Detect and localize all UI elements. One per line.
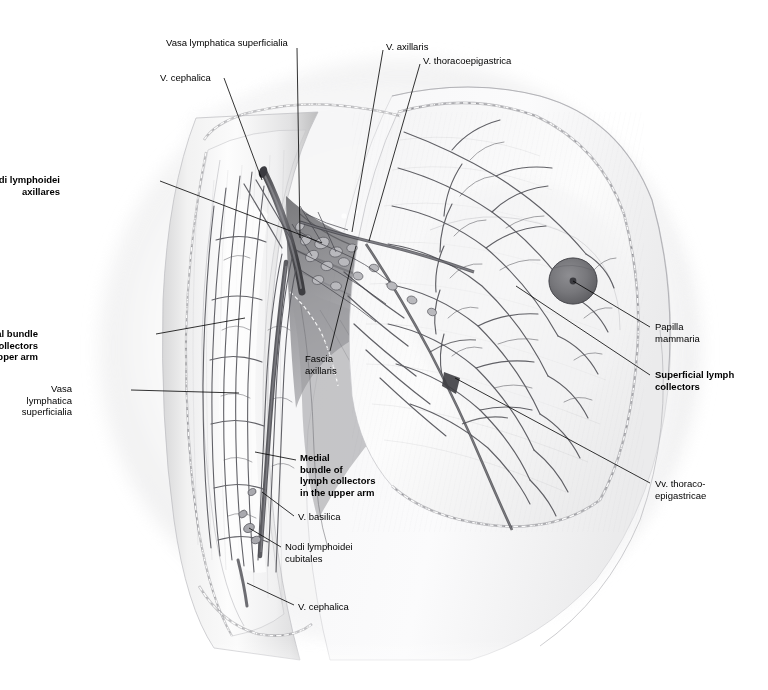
label-v-axillaris: V. axillaris	[386, 41, 428, 53]
anatomy-illustration	[0, 0, 768, 690]
label-dorsolateral-bundle: Dorsolateral bundle of lymph collectors …	[0, 328, 38, 363]
label-nodi-lymphoidei-axillares: Nodi lymphoidei axillares	[0, 174, 60, 197]
label-v-basilica: V. basilica	[298, 511, 340, 523]
nipple-areola	[549, 258, 597, 304]
label-v-thoracoepigastrica: V. thoracoepigastrica	[423, 55, 511, 67]
label-nodi-lymphoidei-cubitales: Nodi lymphoidei cubitales	[285, 541, 353, 564]
anatomical-figure: Vasa lymphatica superficialiaV. axillari…	[0, 0, 768, 690]
label-vasa-lymphatica-superficialia-top: Vasa lymphatica superficialia	[166, 37, 288, 49]
label-vv-thoraco-epigastricae: Vv. thoraco- epigastricae	[655, 478, 706, 501]
label-papilla-mammaria: Papilla mammaria	[655, 321, 700, 344]
label-superficial-lymph-collectors: Superficial lymph collectors	[655, 369, 734, 392]
label-vasa-lymphatica-superficialia-arm: Vasa lymphatica superficialia	[22, 383, 72, 418]
label-v-cephalica-top: V. cephalica	[160, 72, 211, 84]
label-medial-bundle: Medial bundle of lymph collectors in the…	[300, 452, 376, 498]
label-fascia-axillaris: Fascia axillaris	[305, 353, 337, 376]
label-v-cephalica-bottom: V. cephalica	[298, 601, 349, 613]
